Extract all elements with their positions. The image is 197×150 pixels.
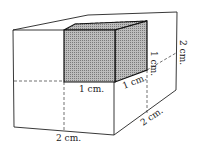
- label-big-height: 2 cm.: [178, 40, 188, 65]
- label-big-depth: 2 cm.: [139, 105, 165, 127]
- label-small-width: 1 cm.: [79, 84, 104, 94]
- label-big-width: 2 cm.: [56, 133, 81, 143]
- large-cube-right-back-edge: [176, 12, 177, 90]
- cube-diagram: 1 cm. 1 cm. 1 cm. 2 cm. 2 cm. 2 cm.: [0, 0, 197, 150]
- label-small-height: 1 cm.: [149, 51, 159, 76]
- small-cube-front: [64, 30, 115, 82]
- large-cube-bottom-right-edge: [114, 90, 176, 135]
- small-cube: [64, 21, 147, 82]
